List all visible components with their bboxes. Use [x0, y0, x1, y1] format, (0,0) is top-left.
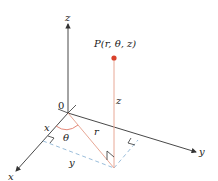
height-label: z [115, 95, 122, 106]
radius-label: r [94, 126, 100, 137]
x-component-label: x [44, 122, 50, 133]
y-axis [68, 113, 196, 152]
x-axis-label: x [8, 171, 14, 181]
dashed-x-component [114, 140, 138, 168]
y-axis-label: y [198, 146, 205, 157]
right-angle-mark-foot [107, 151, 114, 160]
cylindrical-coordinates-diagram: z x y 0 P(r, θ, z) x θ r z y [0, 0, 218, 181]
theta-arc [56, 125, 78, 130]
right-angle-mark-y [128, 138, 135, 145]
x-axis [16, 113, 68, 171]
right-angle-mark-x [48, 136, 54, 143]
point-label: P(r, θ, z) [93, 38, 136, 49]
origin-label: 0 [58, 100, 64, 111]
point-p [111, 55, 116, 60]
axis-back-extension [68, 105, 76, 113]
y-component-label: y [68, 157, 75, 168]
z-axis-label: z [64, 12, 71, 23]
theta-label: θ [63, 132, 69, 143]
